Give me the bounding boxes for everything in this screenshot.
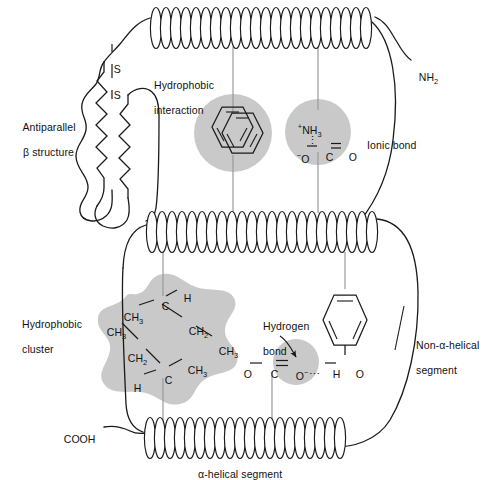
alpha-helix-row-1 bbox=[150, 8, 371, 49]
cluster-atom-ch2-upper-right: CH2 bbox=[183, 313, 208, 340]
n-terminus-text: NH bbox=[419, 71, 434, 83]
cluster-atom-ch2-lower-left-sub: 2 bbox=[143, 358, 147, 367]
cluster-atom-h-lower-left: H bbox=[128, 370, 141, 394]
hbond-dots: ⋯ bbox=[303, 356, 320, 381]
n-terminus-label: NH2 bbox=[413, 59, 438, 86]
cluster-atom-ch3-upper-left-sub: 3 bbox=[139, 317, 143, 326]
beta-strand-2 bbox=[119, 95, 130, 198]
hydrophobic-interaction-label: Hydrophobic interaction bbox=[148, 66, 214, 116]
cluster-atom-ch3-left-text: CH bbox=[107, 326, 122, 338]
cluster-atom-ch2-upper-right-text: CH bbox=[189, 325, 204, 337]
hbond-hydrogen-text: H bbox=[333, 368, 341, 380]
cluster-atom-ch3-lower-right: CH3 bbox=[182, 352, 207, 379]
hydrophobic-interaction-label-line1: Hydrophobic bbox=[154, 79, 214, 91]
non-alpha-helical-leader bbox=[395, 306, 404, 350]
cluster-atom-ch3-right: CH3 bbox=[213, 333, 238, 360]
cluster-atom-ch3-right-sub: 3 bbox=[234, 351, 238, 360]
hbond-o-right: O bbox=[350, 356, 364, 380]
hydrophobic-cluster-label-line2: cluster bbox=[22, 343, 54, 355]
disulfide-sulfur-bottom-text: S bbox=[114, 89, 121, 101]
antiparallel-beta-label-line1: Antiparallel bbox=[22, 121, 75, 133]
cluster-atom-h-lower-left-text: H bbox=[134, 382, 142, 394]
phenol-ring bbox=[323, 295, 367, 355]
antiparallel-beta-label-line2: β structure bbox=[23, 146, 74, 158]
ionic-bond-carbon-text: C bbox=[326, 151, 334, 163]
cluster-atom-ch3-lower-right-text: CH bbox=[188, 364, 203, 376]
ionic-bond-carbon: C bbox=[320, 139, 333, 163]
hbond-hydrogen: H bbox=[327, 356, 340, 380]
loop-left-lower bbox=[123, 225, 146, 268]
non-alpha-helical-loop bbox=[330, 219, 418, 447]
cluster-atom-carbon-lower-text: C bbox=[165, 374, 173, 386]
alpha-helix-row-3 bbox=[144, 418, 345, 459]
alpha-helical-segment-label-line1: α-helical segment bbox=[198, 468, 282, 480]
ionic-bond-carboxylate-o: −O bbox=[291, 139, 309, 165]
non-alpha-helical-label-line2: segment bbox=[416, 364, 457, 376]
disulfide-sulfur-top-text: S bbox=[114, 63, 121, 75]
hydrophobic-cluster-label: Hydrophobic cluster bbox=[16, 305, 82, 355]
phenol-ring-hexagon bbox=[323, 295, 367, 345]
cluster-atom-carbon-lower: C bbox=[159, 362, 172, 386]
cluster-atom-h-upper-right: H bbox=[178, 280, 191, 304]
beta-hairpin-left bbox=[76, 62, 112, 221]
c-terminus-text: COOH bbox=[64, 433, 96, 445]
cluster-atom-carbon-upper-text: C bbox=[162, 300, 170, 312]
beta-strand-1 bbox=[96, 62, 107, 206]
cluster-atom-ch2-lower-left-text: CH bbox=[128, 352, 143, 364]
hydrogen-bond-label-line1: Hydrogen bbox=[263, 320, 309, 332]
hydrophobic-interaction-label-line2: interaction bbox=[154, 104, 204, 116]
cluster-atom-carbon-upper: C bbox=[156, 288, 169, 312]
hbond-o-left-text: O bbox=[244, 368, 252, 380]
disulfide-sulfur-top: S bbox=[108, 51, 121, 75]
ionic-bond-carboxylate-o-text: O bbox=[301, 153, 309, 165]
cluster-atom-ch2-upper-right-sub: 2 bbox=[204, 331, 208, 340]
hydrogen-bond-label-line2: bond bbox=[263, 345, 287, 357]
ionic-bond-carbonyl-o: O bbox=[343, 139, 357, 163]
hbond-o-left: O bbox=[238, 356, 252, 380]
n-terminal-tail bbox=[375, 17, 411, 60]
cluster-atom-ch3-left: CH3 bbox=[101, 314, 126, 341]
ionic-bond-label: Ionic bond bbox=[361, 126, 417, 151]
hbond-carbon-text: C bbox=[271, 368, 279, 380]
hbond-o-right-text: O bbox=[356, 368, 364, 380]
n-terminus-subscript: 2 bbox=[434, 77, 438, 86]
ionic-bond-label-line1: Ionic bond bbox=[367, 139, 416, 151]
disulfide-sulfur-bottom: S bbox=[108, 77, 121, 101]
cluster-atom-ch2-lower-left: CH2 bbox=[122, 340, 147, 367]
non-alpha-helical-label: Non-α-helical segment bbox=[410, 326, 479, 376]
hbond-carbon: C bbox=[265, 356, 278, 380]
cluster-atom-ch3-lower-right-sub: 3 bbox=[203, 370, 207, 379]
alpha-helix-row-2 bbox=[146, 212, 377, 253]
hydrogen-bond-label: Hydrogen bond bbox=[257, 307, 309, 357]
cluster-atom-ch3-right-text: CH bbox=[219, 345, 234, 357]
ionic-bond-carbonyl-o-text: O bbox=[349, 151, 357, 163]
alpha-helical-segment-label: α-helical segment bbox=[192, 455, 282, 480]
hydrophobic-cluster-label-line1: Hydrophobic bbox=[22, 318, 82, 330]
non-alpha-helical-label-line1: Non-α-helical bbox=[416, 339, 479, 351]
cluster-atom-h-upper-right-text: H bbox=[184, 292, 192, 304]
hbond-dots-text: ⋯ bbox=[309, 368, 320, 380]
loop-right-upper bbox=[360, 22, 395, 221]
c-terminus-label: COOH bbox=[58, 421, 95, 445]
antiparallel-beta-label: Antiparallel β structure bbox=[17, 108, 76, 158]
